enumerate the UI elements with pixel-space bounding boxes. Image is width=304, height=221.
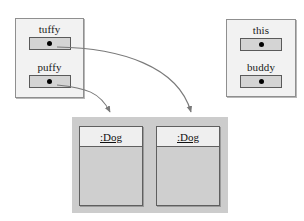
object-attributes-compartment xyxy=(80,147,142,205)
stack-frame-left: tuffy puffy xyxy=(15,18,84,98)
diagram-canvas: tuffy puffy this buddy xyxy=(0,0,304,221)
variable-label-puffy: puffy xyxy=(16,61,83,73)
variable-label-this: this xyxy=(227,24,295,36)
reference-cell-puffy[interactable] xyxy=(29,75,71,88)
variable-buddy[interactable]: buddy xyxy=(227,61,295,88)
object-name-label: :Dog xyxy=(177,131,199,143)
stack-frame-right: this buddy xyxy=(226,19,296,97)
object-attributes-compartment xyxy=(157,147,219,205)
object-name-label: :Dog xyxy=(100,131,122,143)
object-header: :Dog xyxy=(80,127,142,147)
object-header: :Dog xyxy=(157,127,219,147)
reference-cell-tuffy[interactable] xyxy=(29,37,71,50)
variable-label-buddy: buddy xyxy=(227,61,295,73)
reference-dot-icon xyxy=(47,41,52,46)
reference-dot-icon xyxy=(259,42,264,47)
variable-this[interactable]: this xyxy=(227,24,295,51)
reference-cell-buddy[interactable] xyxy=(240,75,282,88)
reference-cell-this[interactable] xyxy=(240,38,282,51)
reference-dot-icon xyxy=(259,79,264,84)
variable-label-tuffy: tuffy xyxy=(16,23,83,35)
object-box-dog-1[interactable]: :Dog xyxy=(79,126,143,206)
heap-panel: :Dog :Dog xyxy=(72,117,228,213)
variable-tuffy[interactable]: tuffy xyxy=(16,23,83,50)
variable-puffy[interactable]: puffy xyxy=(16,61,83,88)
object-box-dog-2[interactable]: :Dog xyxy=(156,126,220,206)
reference-dot-icon xyxy=(47,79,52,84)
